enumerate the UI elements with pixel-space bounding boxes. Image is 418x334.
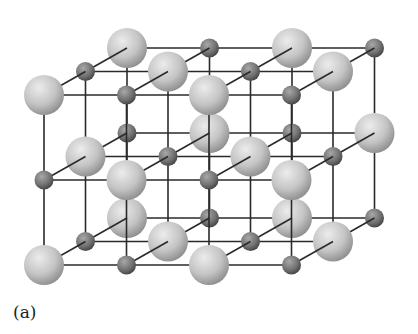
- large-ion: [189, 75, 229, 115]
- large-ion: [107, 160, 147, 200]
- large-ion: [189, 245, 229, 285]
- small-ion: [282, 86, 301, 105]
- large-ion: [272, 160, 312, 200]
- large-ion: [24, 75, 64, 115]
- small-ion: [282, 256, 301, 275]
- small-ion: [117, 86, 136, 105]
- small-ion: [35, 171, 54, 190]
- figure-caption: (a): [13, 302, 36, 322]
- crystal-lattice-diagram: [0, 0, 418, 334]
- small-ion: [117, 256, 136, 275]
- small-ion: [200, 171, 219, 190]
- large-ion: [24, 245, 64, 285]
